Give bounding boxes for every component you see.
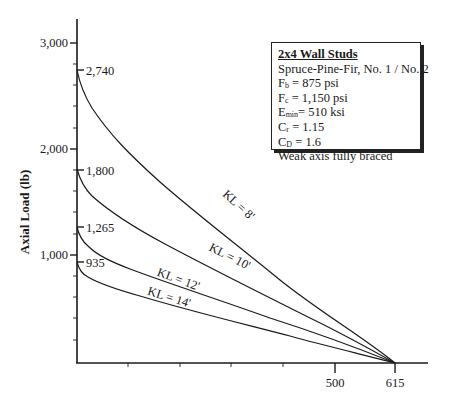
info-fc-value: = 1,150 psi [289,91,348,105]
info-cd: CD = 1.6 [278,135,414,150]
info-emin-value: = 510 ksi [298,105,345,119]
info-fb-value: = 875 psi [289,76,339,90]
info-box-title: 2x4 Wall Studs [278,47,414,62]
curve-kl-14 [77,262,395,363]
info-fc-symbol: F [278,91,285,105]
y-tick-label-1000: 1,000 [40,248,68,262]
y-tick-label-2000: 2,000 [40,142,68,156]
curve-kl-12 [77,227,395,363]
info-emin-sub: min [286,110,298,119]
intercept-label-kl14: 935 [86,256,105,270]
info-cr: Cr = 1.15 [278,120,414,135]
info-cr-value: = 1.15 [289,120,324,134]
info-fb: Fb = 875 psi [278,76,414,91]
info-bracing: Weak axis fully braced [278,149,414,164]
info-fb-symbol: F [278,76,285,90]
x-tick-label-500: 500 [326,376,345,390]
intercept-label-kl8: 2,740 [86,64,114,78]
y-tick-label-3000: 3,000 [40,36,68,50]
info-emin-symbol: E [278,105,286,119]
y-axis-title: Axial Load (lb) [17,170,32,255]
y-major-ticks [70,43,77,255]
info-fc: Fc = 1,150 psi [278,91,414,106]
intercept-ticks [77,70,84,262]
curve-label-kl-10: KL = 10' [207,240,253,273]
info-cd-value: = 1.6 [292,135,321,149]
intercept-label-kl10: 1,800 [86,164,114,178]
x-major-ticks [335,363,395,373]
curve-label-kl-8: KL = 8' [220,187,258,223]
info-emin: Emin= 510 ksi [278,105,414,120]
intercept-label-kl12: 1,265 [86,221,114,235]
info-species: Spruce-Pine-Fir, No. 1 / No. 2 [278,62,414,77]
x-tick-label-615: 615 [386,376,405,390]
properties-info-box: 2x4 Wall Studs Spruce-Pine-Fir, No. 1 / … [271,42,421,150]
